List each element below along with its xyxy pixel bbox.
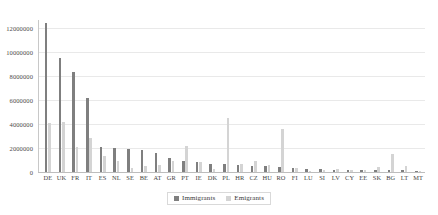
bar-group <box>82 0 96 172</box>
bar-group <box>247 0 261 172</box>
x-axis-tick-label: LT <box>401 174 408 181</box>
bar-immigrants <box>127 149 130 172</box>
chart-legend: ImmigrantsEmigrants <box>0 192 438 205</box>
bar-emigrants <box>323 170 326 172</box>
x-axis-tick-label: IE <box>196 174 202 181</box>
bar-immigrants <box>278 167 281 172</box>
bar-emigrants <box>295 168 298 172</box>
bar-group <box>219 0 233 172</box>
bar-immigrants <box>182 161 185 172</box>
legend-swatch-icon <box>226 196 231 201</box>
bar-emigrants <box>76 147 79 172</box>
x-axis-tick-label: LU <box>304 174 313 181</box>
x-axis-tick-label: AT <box>154 174 162 181</box>
bar-emigrants <box>172 161 175 172</box>
bar-group <box>206 0 220 172</box>
y-axis-tick-labels: 0200000040000006000000800000010000000120… <box>0 0 36 215</box>
bar-emigrants <box>364 170 367 172</box>
bar-group <box>274 0 288 172</box>
x-axis-tick-label: SK <box>373 174 381 181</box>
legend-item[interactable]: Immigrants <box>174 194 215 202</box>
x-axis-tick-labels: DEUKFRITESNLSEBEATGRPTIEDKPLHRCZHUROFILU… <box>41 174 425 186</box>
bar-emigrants <box>117 161 120 172</box>
bar-immigrants <box>305 169 308 172</box>
y-axis-line <box>38 20 39 172</box>
bar-emigrants <box>89 138 92 172</box>
bar-emigrants <box>254 161 257 172</box>
bar-group <box>260 0 274 172</box>
bar-emigrants <box>158 165 161 172</box>
axis-baseline <box>38 172 425 173</box>
bar-group <box>233 0 247 172</box>
bar-immigrants <box>415 171 418 172</box>
bar-emigrants <box>144 166 147 172</box>
bar-group <box>370 0 384 172</box>
bar-emigrants <box>227 118 230 172</box>
bar-immigrants <box>264 166 267 172</box>
bar-immigrants <box>401 170 404 172</box>
bar-emigrants <box>281 129 284 172</box>
bar-emigrants <box>336 169 339 172</box>
bar-group <box>164 0 178 172</box>
bar-group <box>41 0 55 172</box>
bar-emigrants <box>405 166 408 172</box>
bar-emigrants <box>419 171 422 172</box>
bar-immigrants <box>196 162 199 172</box>
bar-immigrants <box>333 170 336 172</box>
y-axis-tick-label: 2000000 <box>10 145 33 152</box>
bar-immigrants <box>251 166 254 172</box>
legend-label: Immigrants <box>182 194 215 202</box>
bar-emigrants <box>377 167 380 172</box>
x-axis-tick-label: CZ <box>249 174 257 181</box>
y-axis-tick-label: 8000000 <box>10 73 33 80</box>
bar-immigrants <box>388 170 391 172</box>
bar-immigrants <box>113 148 116 172</box>
x-axis-tick-label: BG <box>386 174 395 181</box>
bar-group <box>96 0 110 172</box>
bar-immigrants <box>59 58 62 172</box>
x-axis-tick-label: LV <box>332 174 340 181</box>
bar-immigrants <box>374 170 377 172</box>
bar-group <box>123 0 137 172</box>
bar-immigrants <box>292 168 295 172</box>
x-axis-tick-label: RO <box>276 174 285 181</box>
bar-emigrants <box>48 123 51 172</box>
y-axis-tick-label: 6000000 <box>10 97 33 104</box>
bar-immigrants <box>72 72 75 172</box>
bar-immigrants <box>319 169 322 172</box>
x-axis-tick-label: DE <box>43 174 52 181</box>
x-axis-tick-label: UK <box>57 174 66 181</box>
bar-immigrants <box>155 153 158 172</box>
bar-emigrants <box>185 146 188 172</box>
bar-emigrants <box>103 156 106 172</box>
y-axis-tick-label: 10000000 <box>6 49 33 56</box>
bar-group <box>288 0 302 172</box>
x-axis-tick-label: DK <box>208 174 217 181</box>
x-axis-tick-label: FR <box>71 174 79 181</box>
bar-group <box>55 0 69 172</box>
bar-group <box>398 0 412 172</box>
x-axis-tick-label: NL <box>112 174 121 181</box>
legend-box: ImmigrantsEmigrants <box>167 192 271 205</box>
x-axis-tick-label: ES <box>99 174 107 181</box>
legend-item[interactable]: Emigrants <box>226 194 264 202</box>
legend-label: Emigrants <box>234 194 264 202</box>
y-axis-tick-label: 12000000 <box>6 25 33 32</box>
bar-group <box>343 0 357 172</box>
bar-group <box>356 0 370 172</box>
x-axis-tick-label: IT <box>86 174 92 181</box>
y-axis-tick-label: 4000000 <box>10 121 33 128</box>
bar-group <box>302 0 316 172</box>
x-axis-tick-label: MT <box>413 174 423 181</box>
y-axis-tick-label: 0 <box>30 169 33 176</box>
bar-immigrants <box>141 150 144 172</box>
bar-group <box>384 0 398 172</box>
x-axis-tick-label: HR <box>235 174 244 181</box>
bar-immigrants <box>209 164 212 172</box>
x-axis-tick-label: GR <box>167 174 176 181</box>
bar-immigrants <box>223 164 226 172</box>
bar-emigrants <box>199 162 202 172</box>
bar-emigrants <box>309 171 312 172</box>
bar-immigrants <box>168 158 171 172</box>
bar-immigrants <box>86 98 89 172</box>
